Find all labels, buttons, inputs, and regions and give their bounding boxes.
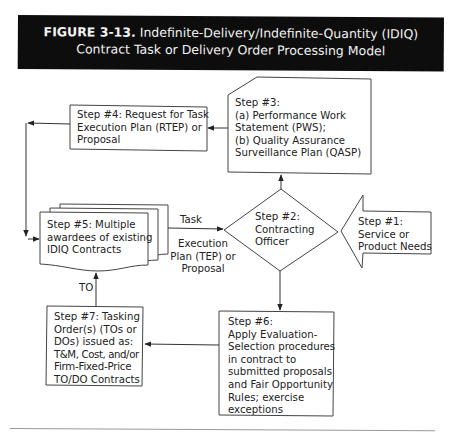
step5-line: awardees of existing (47, 232, 152, 245)
step6-line: Step #6: (228, 316, 335, 329)
step7-line: T&M, Cost, and/or (54, 349, 140, 362)
step6-line: and Fair Opportunity (228, 379, 335, 392)
step1-line: Step #1: (358, 216, 432, 229)
step7-line: DOs) issued as: (54, 336, 140, 349)
step3-line: Statement (PWS); (235, 122, 361, 135)
edge-label-task: Task (180, 214, 202, 227)
step3-line: Surveillance Plan (QASP) (235, 147, 361, 160)
step4-label: Step #4: Request for Task Execution Plan… (77, 109, 209, 147)
step6-label: Step #6: Apply Evaluation- Selection pro… (228, 316, 335, 417)
step7-line: Order(s) (TOs or (54, 324, 140, 337)
edge-label-line: Plan (TEP) or (168, 251, 238, 264)
edge-step5-step2 (168, 228, 223, 229)
step7-line: Step #7: Tasking (54, 311, 140, 324)
edge-label-tep: Execution Plan (TEP) or Proposal (168, 238, 238, 276)
step4-line: Step #4: Request for Task (77, 109, 209, 122)
step1-line: Service or (358, 229, 432, 242)
step2-label: Step #2: Contracting Officer (255, 211, 315, 249)
step5-line: Step #5: Multiple (47, 219, 152, 232)
step6-line: exceptions (228, 404, 335, 417)
step1-label: Step #1: Service or Product Needs (358, 216, 432, 254)
step6-line: in contract to (228, 354, 335, 367)
step7-label: Step #7: Tasking Order(s) (TOs or DOs) i… (54, 311, 140, 387)
edge-label-to: TO (79, 282, 93, 295)
edge-step4-bus (28, 123, 70, 124)
edge-label-line: Proposal (168, 263, 238, 276)
step6-line: Apply Evaluation- (228, 329, 335, 342)
step3-line: (a) Performance Work (235, 110, 361, 123)
edge-step6-step7 (145, 344, 219, 345)
step1-line: Product Needs (358, 241, 432, 254)
step3-line: Step #3: (235, 97, 361, 110)
step3-line: (b) Quality Assurance (235, 135, 361, 148)
step4-line: Proposal (77, 134, 209, 147)
step2-line: Contracting (255, 224, 315, 237)
step6-line: submitted proposals (228, 366, 335, 379)
step6-line: Rules; exercise (228, 392, 335, 405)
step3-label: Step #3: (a) Performance Work Statement … (235, 97, 361, 160)
edge-label-line: Execution (168, 238, 238, 251)
step5-line: IDIQ Contracts (47, 244, 152, 257)
step2-line: Officer (255, 236, 315, 249)
step7-line: Firm-Fixed-Price (54, 361, 140, 374)
step4-line: Execution Plan (RTEP) or (77, 122, 209, 135)
step7-line: TO/DO Contracts (54, 374, 140, 387)
step5-label: Step #5: Multiple awardees of existing I… (47, 219, 152, 257)
step2-line: Step #2: (255, 211, 315, 224)
step6-line: Selection procedures (228, 341, 335, 354)
